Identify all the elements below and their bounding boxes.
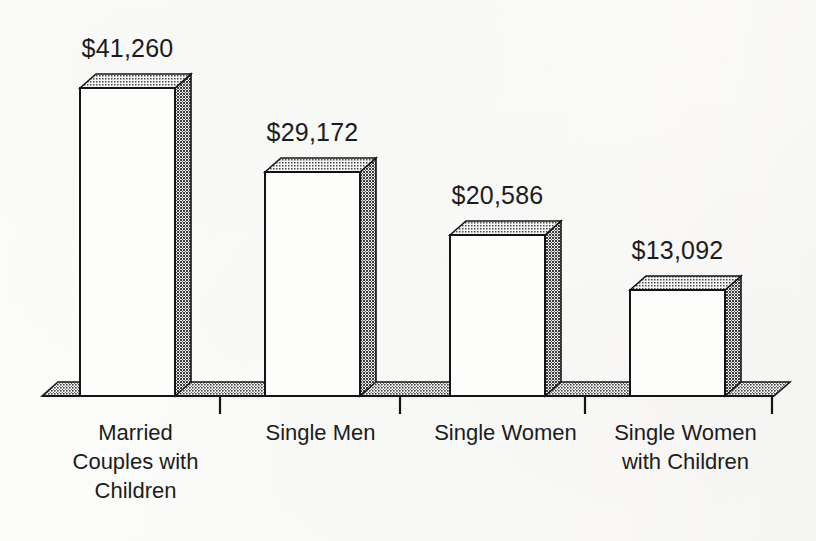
bar-side-face-0 — [175, 74, 191, 396]
bar-side-face-2 — [545, 221, 561, 396]
axis-tick-marks — [220, 396, 772, 414]
category-label-0-line-0: Married — [31, 418, 241, 447]
category-label-0-line-1: Couples with — [31, 447, 241, 476]
data-label-0: $41,260 — [38, 34, 218, 63]
category-label-3: Single Womenwith Children — [581, 418, 791, 476]
category-label-3-line-1: with Children — [581, 447, 791, 476]
bar-3 — [630, 276, 741, 396]
bar-2 — [450, 221, 561, 396]
bar-0 — [80, 74, 191, 396]
bar-side-face-1 — [360, 158, 376, 396]
category-label-0-line-2: Children — [31, 476, 241, 505]
bars-group — [80, 74, 741, 396]
bar-top-face-2 — [450, 221, 561, 235]
data-label-2: $20,586 — [408, 181, 588, 210]
bar-top-face-0 — [80, 74, 191, 88]
bar-side-face-3 — [725, 276, 741, 396]
bar-front-face-1 — [265, 172, 360, 396]
data-label-3: $13,092 — [588, 236, 768, 265]
bar-front-face-3 — [630, 290, 725, 396]
bar-chart: $41,260$29,172$20,586$13,092 MarriedCoup… — [0, 0, 816, 541]
category-label-2: Single Women — [401, 418, 611, 447]
category-label-1: Single Men — [216, 418, 426, 447]
bar-front-face-0 — [80, 88, 175, 396]
bar-top-face-3 — [630, 276, 741, 290]
data-label-1: $29,172 — [223, 118, 403, 147]
bar-1 — [265, 158, 376, 396]
bar-front-face-2 — [450, 235, 545, 396]
category-label-0: MarriedCouples withChildren — [31, 418, 241, 505]
category-label-2-line-0: Single Women — [401, 418, 611, 447]
category-label-3-line-0: Single Women — [581, 418, 791, 447]
category-label-1-line-0: Single Men — [216, 418, 426, 447]
bar-top-face-1 — [265, 158, 376, 172]
